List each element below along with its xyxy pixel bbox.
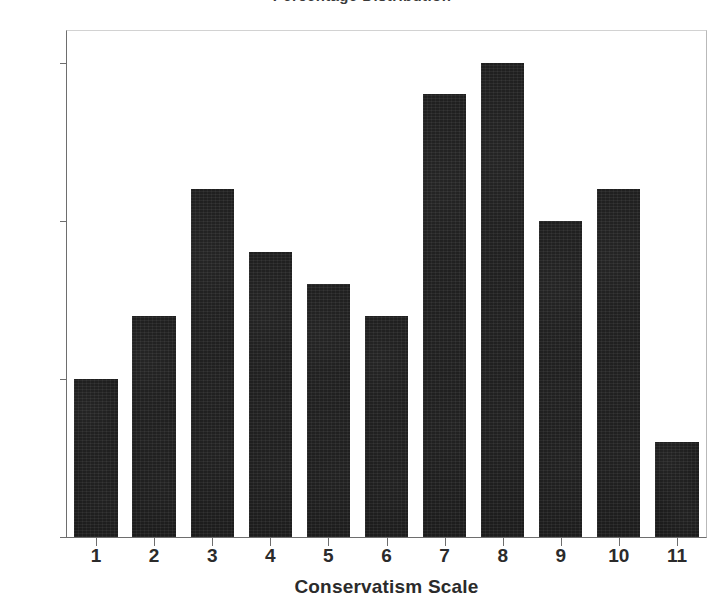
x-tick-label: 7 <box>415 545 475 567</box>
bar[interactable] <box>655 442 698 537</box>
x-tick-label: 1 <box>66 545 126 567</box>
x-tick-label: 8 <box>473 545 533 567</box>
x-tick-label: 3 <box>182 545 242 567</box>
x-tick-label: 9 <box>531 545 591 567</box>
y-tick-mark <box>60 537 67 538</box>
x-tick-label: 6 <box>357 545 417 567</box>
y-tick-mark <box>60 379 67 380</box>
chart-figure: Percentage Distribution 0510151234567891… <box>0 0 724 613</box>
y-tick-mark <box>60 63 67 64</box>
x-tick-label: 2 <box>124 545 184 567</box>
plot-area: 0510151234567891011 <box>67 31 706 537</box>
bar[interactable] <box>539 221 582 537</box>
bar[interactable] <box>365 316 408 537</box>
chart-title: Percentage Distribution <box>0 0 724 7</box>
x-tick-label: 5 <box>298 545 358 567</box>
x-axis-title: Conservatism Scale <box>66 576 707 598</box>
y-axis-title: Percent <box>0 222 4 284</box>
bar[interactable] <box>597 189 640 537</box>
bar[interactable] <box>191 189 234 537</box>
bar[interactable] <box>423 94 466 537</box>
bar[interactable] <box>249 252 292 537</box>
bar[interactable] <box>74 379 117 537</box>
plot-frame: 0510151234567891011 <box>66 30 707 538</box>
bar[interactable] <box>307 284 350 537</box>
x-tick-label: 10 <box>589 545 649 567</box>
y-tick-mark <box>60 221 67 222</box>
bar[interactable] <box>132 316 175 537</box>
x-tick-label: 11 <box>647 545 707 567</box>
bar[interactable] <box>481 63 524 537</box>
x-tick-label: 4 <box>240 545 300 567</box>
